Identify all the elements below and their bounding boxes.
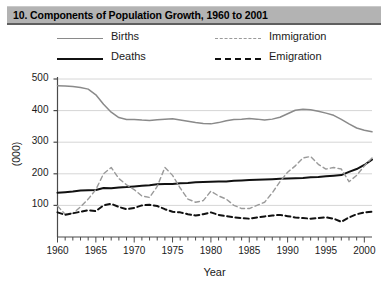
x-tick-label-1965: 1965: [76, 245, 116, 256]
x-tick-label-1990: 1990: [268, 245, 308, 256]
x-tick-label-1975: 1975: [153, 245, 193, 256]
y-tick-label-300: 300: [19, 135, 49, 146]
series-line-emigration: [58, 204, 373, 222]
x-tick-label-1970: 1970: [114, 245, 154, 256]
y-tick-label-400: 400: [19, 104, 49, 115]
x-tick-label-1995: 1995: [306, 245, 346, 256]
y-tick-label-200: 200: [19, 167, 49, 178]
x-tick-label-1960: 1960: [38, 245, 78, 256]
x-tick-label-2000: 2000: [344, 245, 384, 256]
x-axis-label: Year: [57, 266, 372, 278]
y-tick-label-500: 500: [19, 72, 49, 83]
plot-area: (000) Year 10020030040050019601965197019…: [0, 0, 388, 289]
population-growth-chart-figure: 10. Components of Population Growth, 196…: [0, 0, 388, 289]
x-tick-label-1985: 1985: [229, 245, 269, 256]
series-line-births: [58, 86, 373, 132]
y-tick-label-100: 100: [19, 198, 49, 209]
x-tick-label-1980: 1980: [191, 245, 231, 256]
series-line-deaths: [58, 160, 373, 193]
